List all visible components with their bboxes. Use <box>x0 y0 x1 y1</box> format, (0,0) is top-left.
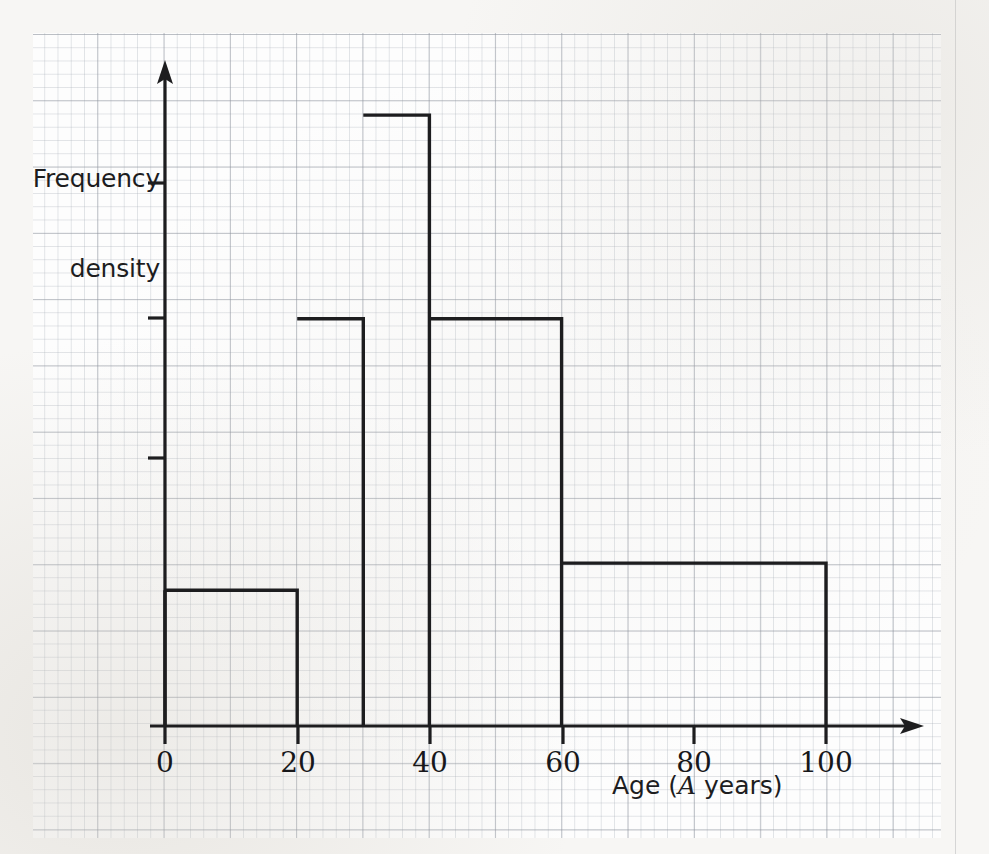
x-tick-label-40: 40 <box>412 748 448 778</box>
x-tick-label-0: 0 <box>156 748 174 778</box>
x-axis-title-prefix: Age ( <box>612 771 678 800</box>
y-axis-title-line1: Frequency <box>0 164 160 194</box>
histogram-bars-outline <box>165 115 826 726</box>
x-tick-label-80: 80 <box>676 748 712 778</box>
y-axis-title: Frequency density <box>0 104 160 344</box>
histogram-figure: Frequency density Age (A years) 0 20 40 … <box>0 0 989 854</box>
x-tick-label-100: 100 <box>799 748 852 778</box>
y-axis-title-line2: density <box>0 254 160 284</box>
x-tick-label-60: 60 <box>545 748 581 778</box>
x-tick-label-20: 20 <box>280 748 316 778</box>
